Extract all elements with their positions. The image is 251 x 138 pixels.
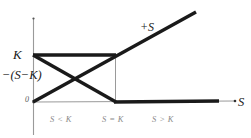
x-axis-tip-dot xyxy=(234,100,237,103)
x-axis-label: S xyxy=(238,96,244,109)
long-stock-label: +S xyxy=(140,21,154,33)
region-label-s-equals-k: S = K xyxy=(102,114,124,124)
strike-label-k: K xyxy=(13,48,22,61)
region-label-s-less-than-k: S < K xyxy=(50,114,72,124)
payoff-diagram-figure: K −(S−K) 0 +S S S < K S = K S > K xyxy=(0,0,251,138)
origin-label: 0 xyxy=(25,96,29,104)
y-axis-tip-dot xyxy=(32,17,34,19)
short-call-payoff-label: −(S−K) xyxy=(2,69,42,82)
region-label-s-greater-than-k: S > K xyxy=(152,114,174,124)
curve-zero-floor xyxy=(114,101,219,102)
curve-long-stock xyxy=(33,12,196,102)
